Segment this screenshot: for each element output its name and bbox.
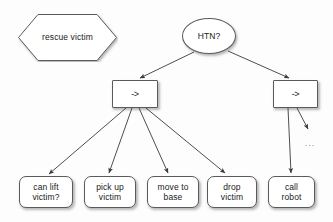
node-label-move-to-base: move to base: [158, 182, 189, 203]
edge-right-to-call-robot: [288, 108, 291, 173]
edge-htn-to-method-right: [228, 51, 289, 78]
node-label-method-left: ->: [131, 89, 138, 100]
node-label-more-ellipsis: ...: [305, 138, 316, 149]
node-drop-victim[interactable]: drop victim: [207, 176, 257, 208]
edge-left-to-can-lift: [49, 108, 126, 174]
node-label-htn-question: HTN?: [198, 31, 221, 42]
node-label-pick-up-victim: pick up victim: [96, 182, 124, 203]
node-method-left[interactable]: ->: [112, 80, 158, 108]
node-label-can-lift-victim: can lift victim?: [32, 182, 59, 203]
edge-left-to-drop: [146, 108, 225, 173]
node-call-robot[interactable]: call robot: [268, 176, 315, 208]
node-label-drop-victim: drop victim: [221, 182, 243, 203]
edge-left-to-pick-up: [109, 108, 132, 173]
node-label-method-right: ->: [292, 89, 299, 100]
node-move-to-base[interactable]: move to base: [147, 176, 199, 208]
edge-right-to-ellipsis: [297, 108, 308, 129]
node-pick-up-victim[interactable]: pick up victim: [84, 176, 136, 208]
node-rescue-victim[interactable]: rescue victim: [17, 13, 118, 62]
diagram-canvas: rescue victim HTN? -> -> can lift victim…: [0, 0, 333, 222]
node-method-right[interactable]: ->: [273, 80, 318, 108]
edge-htn-to-method-left: [140, 52, 194, 78]
node-htn-question[interactable]: HTN?: [182, 18, 236, 54]
node-more-ellipsis: ...: [300, 136, 320, 150]
node-can-lift-victim[interactable]: can lift victim?: [19, 176, 73, 208]
node-label-call-robot: call robot: [282, 182, 302, 203]
edge-left-to-move-to: [139, 108, 168, 173]
